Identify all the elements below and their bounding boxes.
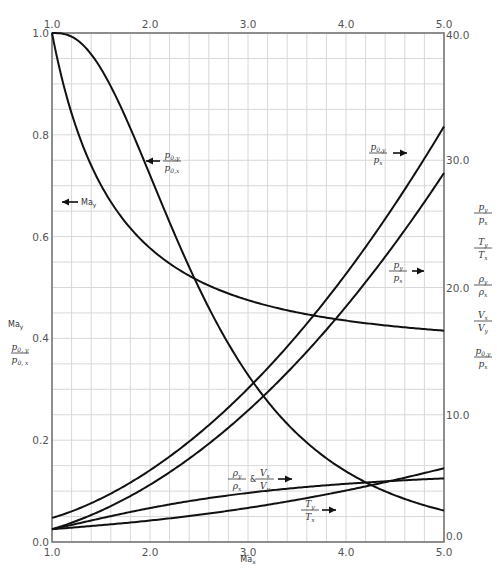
left-axis-may: May [8, 320, 24, 331]
frac-den: ρx [232, 481, 242, 492]
frac-num: ρy [232, 468, 242, 480]
p0-ratio-label: p0,yp0,x [163, 150, 181, 174]
grid [52, 33, 444, 542]
x-tick-top: 2.0 [142, 18, 159, 30]
x-tick-bottom: 4.0 [338, 546, 355, 558]
p0y-px-label: p0,ypx [369, 142, 387, 166]
right-axis-rho: ρyρx [474, 274, 492, 298]
ampersand: & [250, 475, 256, 484]
frac-num: Ty [478, 237, 488, 249]
y-tick-left: 0.4 [32, 332, 49, 344]
y-tick-left: 0.2 [32, 434, 49, 446]
frac-den: px [478, 359, 488, 370]
v-ratio-label: VxVy [256, 468, 274, 493]
y-tick-left: 1.0 [32, 27, 49, 39]
right-axis-py-px: pypx [474, 202, 492, 226]
right-axis-v: VxVy [474, 310, 492, 335]
rho-v-arrow-head [285, 476, 292, 483]
p0y-px-arrow-head [400, 150, 407, 157]
frac-den: Vy [478, 323, 489, 335]
y-tick-right: 30.0 [446, 154, 469, 166]
frac-den: px [478, 215, 488, 226]
frac-den: Tx [478, 250, 488, 261]
y-tick-right: 0.0 [446, 530, 463, 542]
right-axis-p0y-px: p0,ypx [474, 346, 492, 370]
frac-num: py [478, 202, 488, 214]
y-tick-left: 0.0 [32, 536, 49, 548]
left-axis-p0-ratio: p0, yp0, x [11, 342, 29, 366]
y-tick-left: 0.8 [32, 129, 49, 141]
x-tick-bottom: 5.0 [436, 546, 453, 558]
frac-den: p0,x [165, 163, 180, 174]
py-px-arrow-head [417, 268, 424, 275]
frac-den: px [373, 155, 383, 166]
frac-num: Vx [478, 310, 489, 321]
y-tick-left: 0.6 [32, 231, 49, 243]
frac-den: ρx [478, 287, 488, 298]
frac-den: Tx [305, 512, 315, 523]
x-tick-top: 4.0 [338, 18, 355, 30]
frac-num: p0,y [371, 142, 386, 154]
rho-ratio-label: ρyρx [228, 468, 246, 492]
frac-num: ρy [478, 274, 488, 286]
t-ratio-arrow-head [329, 507, 336, 514]
right-axis-ty-tx: TyTx [474, 237, 492, 261]
frac-den: p0, x [12, 355, 29, 366]
ma-y-label: May [81, 198, 97, 209]
x-tick-bottom: 2.0 [142, 546, 159, 558]
frac-den: px [393, 273, 403, 284]
y-tick-right: 20.0 [446, 282, 469, 294]
y-tick-right: 10.0 [446, 409, 469, 421]
y-tick-right: 40.0 [446, 29, 469, 41]
frac-num: p0,y [476, 346, 491, 358]
normal-shock-chart: 1.02.03.04.05.01.02.03.04.05.00.00.20.40… [0, 0, 497, 569]
x-tick-top: 3.0 [240, 18, 257, 30]
frac-num: p0, y [12, 342, 29, 354]
frac-num: Vx [260, 468, 271, 479]
t-ratio-label: TyTx [301, 499, 319, 523]
annotations: Mayp0,yp0,xp0,ypxpypxρyρx&VxVyTyTxMayp0,… [8, 142, 492, 565]
ma-y-arrow-head [62, 199, 69, 206]
